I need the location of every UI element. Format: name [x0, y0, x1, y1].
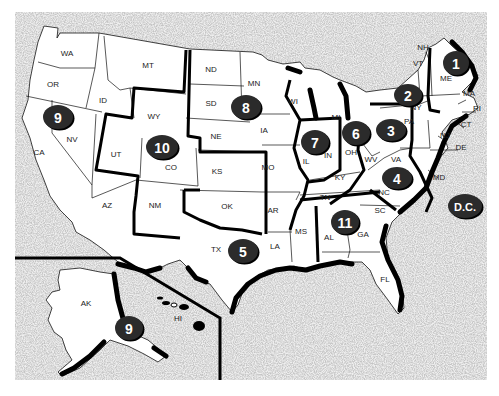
circuit-number: 11 [338, 215, 353, 231]
state-label-vt: VT [413, 59, 423, 68]
state-label-nv: NV [66, 135, 78, 144]
circuit-number: 8 [242, 100, 250, 116]
state-label-or: OR [47, 80, 59, 89]
state-label-mt: MT [142, 61, 154, 70]
state-label-ct: CT [461, 120, 472, 129]
state-label-id: ID [99, 96, 107, 105]
state-label-sd: SD [205, 99, 216, 108]
state-label-oh: OH [345, 148, 357, 157]
state-label-ia: IA [260, 126, 268, 135]
state-label-ri: RI [473, 104, 481, 113]
state-label-mi: MI [332, 113, 341, 122]
state-label-va: VA [391, 155, 402, 164]
us-circuit-map: WAORCANVIDMTWYUTCOAZNMNDSDNEKSOKTXMNIAMO… [0, 0, 499, 396]
circuit-number: 3 [387, 123, 395, 139]
circuit-number: D.C. [454, 201, 476, 213]
state-label-ga: GA [357, 230, 369, 239]
state-label-hi: HI [174, 314, 182, 323]
state-label-ne: NE [210, 132, 221, 141]
state-label-nh: NH [417, 43, 429, 52]
circuit-number: 7 [311, 135, 319, 151]
circuit-number: 4 [393, 171, 401, 187]
circuit-number: 9 [125, 321, 133, 337]
circuit-number: 9 [54, 110, 62, 126]
state-label-ks: KS [212, 167, 223, 176]
state-label-ms: MS [295, 227, 307, 236]
state-label-ar: AR [267, 206, 278, 215]
state-label-sc: SC [374, 206, 385, 215]
state-label-pa: PA [404, 117, 415, 126]
state-label-ma: MA [463, 89, 476, 98]
state-label-wy: WY [148, 112, 162, 121]
state-label-mn: MN [248, 79, 261, 88]
state-label-wi: WI [288, 97, 298, 106]
state-label-wa: WA [61, 49, 74, 58]
state-label-ky: KY [335, 173, 346, 182]
state-label-co: CO [165, 163, 177, 172]
state-label-me: ME [440, 74, 452, 83]
state-label-md: MD [433, 173, 446, 182]
circuit-number: 2 [404, 88, 412, 104]
circuit-number: 10 [154, 140, 170, 156]
circuit-number: 5 [239, 244, 247, 260]
circuit-number: 6 [352, 126, 360, 142]
state-label-ca: CA [33, 148, 45, 157]
state-label-nj: NJ [440, 131, 450, 140]
state-label-ak: AK [81, 299, 92, 308]
state-label-wv: WV [365, 155, 379, 164]
state-label-nd: ND [205, 65, 217, 74]
state-label-de: DE [455, 143, 466, 152]
state-label-tn: TN [320, 193, 331, 202]
state-label-al: AL [324, 233, 334, 242]
circuit-number: 1 [452, 56, 460, 72]
state-label-nm: NM [149, 201, 162, 210]
state-label-ok: OK [221, 202, 233, 211]
state-label-tx: TX [211, 245, 222, 254]
state-label-mo: MO [262, 163, 275, 172]
state-label-ut: UT [111, 150, 122, 159]
state-label-az: AZ [102, 201, 112, 210]
state-label-fl: FL [380, 275, 390, 284]
state-label-nc: NC [378, 188, 390, 197]
state-label-il: IL [303, 157, 310, 166]
state-label-la: LA [270, 242, 280, 251]
